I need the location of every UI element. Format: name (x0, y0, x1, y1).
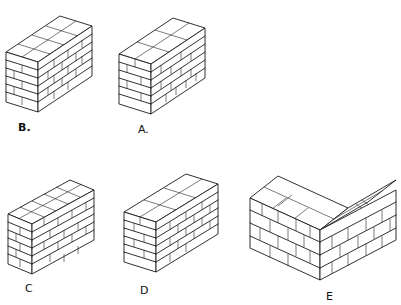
figure-b-wall (2, 8, 98, 116)
figure-c-wall (4, 170, 100, 278)
brick-wall-c-illustration (4, 170, 100, 278)
figure-b-label: B. (18, 122, 31, 133)
brick-wall-a-illustration (115, 10, 211, 118)
figure-e-corner-wall (248, 168, 400, 286)
figure-d-wall (120, 168, 224, 278)
figure-d-label: D (140, 285, 148, 296)
brick-wall-d-illustration (120, 168, 224, 278)
brick-wall-b-illustration (2, 8, 98, 116)
figure-e-label: E (326, 291, 333, 302)
figure-c-label: C (25, 283, 33, 294)
figure-a-label: A. (138, 124, 149, 135)
brick-corner-e-illustration (248, 168, 400, 286)
figure-a-wall (115, 10, 211, 118)
